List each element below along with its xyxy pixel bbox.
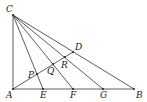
point-r	[64, 56, 66, 58]
segment-ad	[13, 52, 73, 89]
label-p: P	[27, 70, 35, 80]
point-c	[12, 14, 14, 16]
point-d	[72, 51, 74, 53]
segment-cf	[13, 15, 73, 89]
label-r: R	[60, 60, 68, 70]
point-p	[36, 73, 38, 75]
label-b: B	[135, 90, 143, 100]
label-a: A	[5, 90, 13, 100]
segment-cg	[13, 15, 103, 89]
label-g: G	[100, 90, 107, 100]
label-c: C	[6, 4, 13, 14]
label-q: Q	[47, 66, 55, 76]
geometry-diagram: C A E F G B D R Q P	[0, 0, 147, 102]
point-q	[52, 63, 54, 65]
label-e: E	[39, 90, 47, 100]
point-b	[133, 88, 135, 90]
label-f: F	[69, 90, 77, 100]
label-d: D	[74, 42, 82, 52]
